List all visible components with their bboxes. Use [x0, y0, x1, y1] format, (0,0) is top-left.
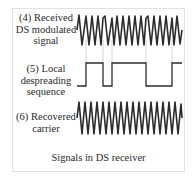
despreading-sequence-waveform [77, 63, 182, 86]
received-signal-waveform [77, 15, 182, 45]
transition-guide-lines [86, 40, 172, 64]
recovered-carrier-waveform [77, 102, 182, 134]
diagram-caption: Signals in DS receiver [12, 152, 185, 163]
